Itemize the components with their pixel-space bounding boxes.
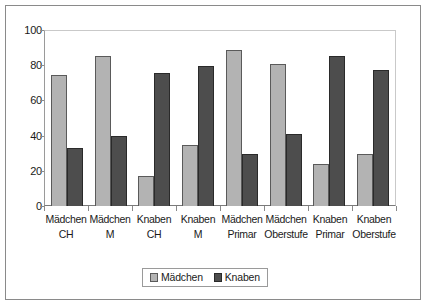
x-axis-label-line1: Knaben bbox=[132, 212, 176, 227]
y-tick-label: 20 bbox=[10, 165, 42, 176]
x-axis-label-line2: Primar bbox=[308, 227, 352, 242]
x-axis-label: KnabenOberstufe bbox=[352, 212, 396, 254]
category-tick bbox=[44, 206, 45, 211]
x-axis-label-line2: CH bbox=[132, 227, 176, 242]
x-axis-label-line1: Knaben M bbox=[176, 212, 220, 242]
bar-knaben bbox=[329, 56, 345, 207]
bar-maedchen bbox=[138, 176, 154, 206]
legend-swatch-icon bbox=[214, 273, 222, 282]
x-axis-label: MädchenM bbox=[88, 212, 132, 254]
category-tick-marks bbox=[44, 206, 396, 211]
bars-layer bbox=[45, 31, 395, 206]
x-axis-labels: MädchenCHMädchenMKnabenCHKnaben MMädchen… bbox=[44, 212, 396, 254]
category-tick bbox=[308, 206, 309, 211]
bar-knaben bbox=[154, 73, 170, 206]
y-tick-label: 60 bbox=[10, 95, 42, 106]
x-axis-label: MädchenOberstufe bbox=[264, 212, 308, 254]
legend-label: Knaben bbox=[225, 271, 260, 283]
x-axis-label-line1: Knaben bbox=[352, 212, 396, 227]
bar-group bbox=[264, 31, 308, 206]
bar-maedchen bbox=[270, 64, 286, 206]
legend-swatch-icon bbox=[150, 273, 158, 282]
category-tick bbox=[352, 206, 353, 211]
category-tick bbox=[396, 206, 397, 211]
x-axis-label: KnabenCH bbox=[132, 212, 176, 254]
x-axis-label-line2: Oberstufe bbox=[352, 227, 396, 242]
x-axis-label: MädchenPrimar bbox=[220, 212, 264, 254]
category-tick bbox=[264, 206, 265, 211]
bar-maedchen bbox=[226, 50, 242, 206]
x-axis-label: KnabenPrimar bbox=[308, 212, 352, 254]
x-axis-label-line2: Oberstufe bbox=[264, 227, 308, 242]
y-tick-label: 40 bbox=[10, 130, 42, 141]
x-axis-label-line1: Mädchen bbox=[88, 212, 132, 227]
bar-group bbox=[133, 31, 177, 206]
x-axis-label-line1: Mädchen bbox=[264, 212, 308, 227]
bar-knaben bbox=[198, 66, 214, 206]
category-tick bbox=[220, 206, 221, 211]
bar-knaben bbox=[242, 154, 258, 207]
x-axis-label: MädchenCH bbox=[44, 212, 88, 254]
bar-knaben bbox=[111, 136, 127, 206]
bar-maedchen bbox=[95, 56, 111, 207]
bar-maedchen bbox=[182, 145, 198, 206]
bar-group bbox=[176, 31, 220, 206]
x-axis-label-line2: M bbox=[88, 227, 132, 242]
category-tick bbox=[132, 206, 133, 211]
y-tick-label: 0 bbox=[10, 201, 42, 212]
category-tick bbox=[176, 206, 177, 211]
x-axis-label-line1: Mädchen bbox=[220, 212, 264, 227]
bar-group bbox=[89, 31, 133, 206]
bar-knaben bbox=[67, 148, 83, 206]
y-axis: 100 80 60 40 20 0 bbox=[6, 30, 42, 206]
bar-knaben bbox=[373, 70, 389, 207]
bar-knaben bbox=[286, 134, 302, 206]
x-axis-label-line1: Knaben bbox=[308, 212, 352, 227]
bar-group bbox=[45, 31, 89, 206]
x-axis-label-line2: Primar bbox=[220, 227, 264, 242]
bar-maedchen bbox=[51, 75, 67, 206]
chart-frame: 100 80 60 40 20 0 MädchenCHMädchenMKnabe… bbox=[5, 5, 421, 300]
y-tick-label: 80 bbox=[10, 60, 42, 71]
chart-legend: MädchenKnaben bbox=[142, 268, 268, 287]
x-axis-label-line2: CH bbox=[44, 227, 88, 242]
bar-maedchen bbox=[357, 154, 373, 207]
legend-label: Mädchen bbox=[161, 271, 203, 283]
category-tick bbox=[88, 206, 89, 211]
bar-maedchen bbox=[313, 164, 329, 206]
legend-entry: Knaben bbox=[214, 271, 260, 283]
legend-entry: Mädchen bbox=[150, 271, 203, 283]
x-axis-label: Knaben M bbox=[176, 212, 220, 254]
bar-group bbox=[220, 31, 264, 206]
x-axis-label-line1: Mädchen bbox=[44, 212, 88, 227]
bar-group bbox=[351, 31, 395, 206]
y-tick-label: 100 bbox=[10, 25, 42, 36]
bar-group bbox=[308, 31, 352, 206]
